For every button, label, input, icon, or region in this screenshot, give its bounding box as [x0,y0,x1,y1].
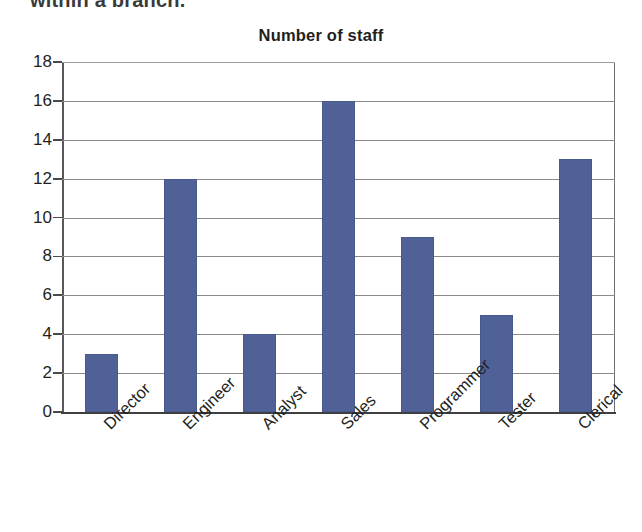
y-axis-tick [53,139,62,141]
y-axis-tick [53,294,62,296]
y-axis-tick [53,411,62,413]
x-label-slot: Tester [457,414,536,524]
bar-slot [299,62,378,412]
y-axis-tick-label: 18 [33,52,52,72]
bar [243,334,275,412]
y-axis-tick [53,100,62,102]
chart-title: Number of staff [0,26,642,45]
bar-slot [62,62,141,412]
bar-slot [457,62,536,412]
bar-series [62,62,615,412]
bar-slot [536,62,615,412]
bar [164,179,196,412]
y-axis-tick-label: 8 [43,246,52,266]
bar [401,237,433,412]
x-axis-tick-labels: DirectorEngineerAnalystSalesProgrammerTe… [62,414,615,524]
y-axis-tick-label: 12 [33,169,52,189]
y-axis-tick [53,61,62,63]
x-label-slot: Engineer [141,414,220,524]
y-axis-tick [53,333,62,335]
y-axis-tick-label: 4 [43,324,52,344]
chart-page: within a branch. Number of staff 0246810… [0,0,642,532]
bar-slot [220,62,299,412]
x-label-slot: Analyst [220,414,299,524]
y-axis-tick-label: 16 [33,91,52,111]
bar-slot [141,62,220,412]
y-axis-tick [53,372,62,374]
bar [322,101,354,412]
bar-slot [378,62,457,412]
bar [559,159,591,412]
clipped-body-text: within a branch. [30,0,185,12]
x-label-slot: Clerical [536,414,615,524]
x-label-slot: Programmer [378,414,457,524]
y-axis-tick-label: 10 [33,208,52,228]
y-axis-tick-labels: 024681012141618 [0,62,52,412]
y-axis-tick-label: 14 [33,130,52,150]
x-label-slot: Sales [299,414,378,524]
y-axis-tick [53,256,62,258]
y-axis-tick-label: 0 [43,402,52,422]
x-label-slot: Director [62,414,141,524]
bar [85,354,117,412]
y-axis-tick-label: 2 [43,363,52,383]
y-axis-tick [53,178,62,180]
y-axis-tick-label: 6 [43,285,52,305]
y-axis-tick [53,217,62,219]
plot-area [62,62,615,412]
